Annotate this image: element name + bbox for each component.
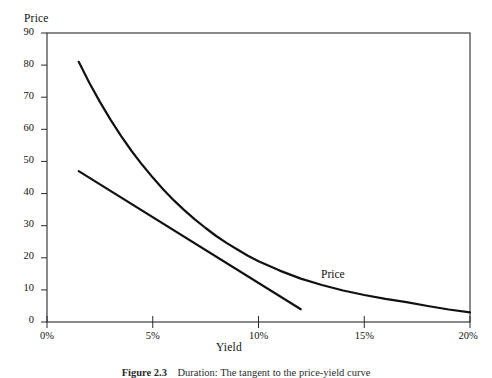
figure-caption-label: Figure 2.3 [122,367,178,378]
price-curve [79,62,470,313]
y-tick-label-70: 70 [8,90,34,101]
y-tick-label-40: 40 [8,186,34,197]
y-axis-ticks [41,33,47,322]
y-tick-label-90: 90 [8,26,34,37]
x-tick-label-15pct: 15% [342,330,386,341]
y-tick-label-10: 10 [8,282,34,293]
y-tick-label-0: 0 [8,314,34,325]
y-tick-label-20: 20 [8,250,34,261]
x-tick-label-20pct: 20% [446,330,490,341]
figure-caption-text: Duration: The tangent to the price-yield… [177,367,370,378]
price-series-annotation: Price [321,268,345,280]
y-axis-title: Price [24,12,49,24]
x-axis-title: Yield [216,341,242,353]
figure-caption: Figure 2.3 Duration: The tangent to the … [0,367,492,378]
plot-border [47,33,470,322]
x-tick-label-5pct: 5% [131,330,175,341]
y-tick-label-80: 80 [8,58,34,69]
x-tick-label-10pct: 10% [237,330,281,341]
x-tick-label-0pct: 0% [25,330,69,341]
y-tick-label-30: 30 [8,218,34,229]
y-tick-label-50: 50 [8,154,34,165]
plot-frame [47,33,470,322]
tangent-line [79,171,301,309]
y-tick-label-60: 60 [8,122,34,133]
